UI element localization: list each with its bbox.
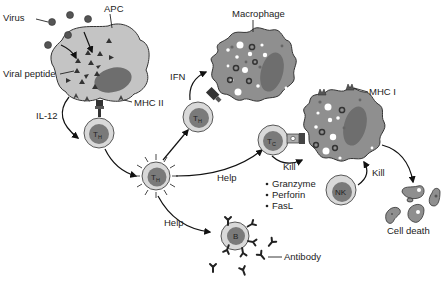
kill-nk-label: Kill [372, 167, 385, 178]
help-b-label: Help [164, 217, 184, 228]
svg-text:NK: NK [335, 188, 347, 197]
ifn-label: IFN [170, 71, 185, 82]
mhc1-receptor-icon [318, 89, 326, 95]
th-activated-cell: TH [134, 154, 178, 198]
mhc1-label: MHC I [369, 86, 396, 97]
dead-cell-fragments [386, 186, 440, 224]
th-naive-cell: TH [84, 118, 114, 148]
kill-tc-label: Kill [283, 161, 296, 172]
th-macrophage-cell: TH [183, 87, 223, 132]
svg-text:Granzyme: Granzyme [272, 178, 316, 189]
il12-label: IL-12 [36, 110, 58, 121]
mhc-tcr-complex [96, 100, 103, 106]
svg-text:FasL: FasL [272, 200, 293, 211]
antibody-label: Antibody [284, 251, 321, 262]
cell-death-label: Cell death [387, 225, 430, 236]
apc-label: APC [104, 3, 124, 14]
svg-text:B: B [233, 232, 238, 241]
macrophage-label: Macrophage [232, 8, 285, 19]
macrophage-top [211, 28, 296, 101]
tc-cell: TC [258, 125, 305, 155]
mhc2-label: MHC II [134, 97, 164, 108]
viral-peptide-label: Viral peptide [3, 68, 56, 79]
help-tc-label: Help [217, 172, 237, 183]
mhc1-receptor-icon [346, 84, 354, 90]
effector-molecule-list: Granzyme Perforin FasL [266, 178, 316, 211]
svg-text:Perforin: Perforin [272, 189, 305, 200]
immune-response-diagram: Virus APC Viral peptide MHC II IL-12 TH [0, 0, 446, 283]
virus-label: Virus [3, 12, 25, 23]
nk-cell: NK [326, 175, 356, 205]
b-cell: B [221, 222, 249, 250]
